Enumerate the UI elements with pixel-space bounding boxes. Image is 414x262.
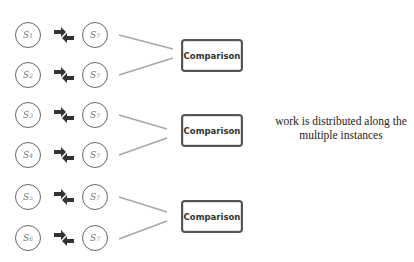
exchange-arrows-icon — [54, 189, 74, 205]
exchange-arrows-icon — [54, 67, 74, 83]
node-s7: S7 — [82, 142, 108, 168]
node-s1: S1 — [15, 22, 41, 48]
node-subscript: 5 — [29, 194, 33, 201]
connector-line — [119, 35, 173, 49]
node-s6: S6 — [15, 225, 41, 251]
comparison-box-3: Comparison — [181, 200, 243, 233]
node-s7: S7 — [82, 225, 108, 251]
comparison-box-2: Comparison — [181, 114, 243, 147]
comparison-label: Comparison — [184, 212, 241, 222]
exchange-arrows-icon — [54, 230, 74, 246]
note-line-1: work is distributed along the — [268, 114, 414, 128]
connector-line — [119, 221, 167, 239]
node-s7: S7 — [82, 184, 108, 210]
node-s5: S5 — [15, 184, 41, 210]
exchange-arrows-icon — [54, 27, 74, 43]
node-s7: S7 — [82, 102, 108, 128]
node-s4: S4 — [15, 142, 41, 168]
node-subscript: 7 — [96, 72, 100, 79]
distribution-note: work is distributed along the multiple i… — [268, 114, 414, 142]
node-subscript: 2 — [29, 72, 33, 79]
node-s3: S3 — [15, 102, 41, 128]
comparison-label: Comparison — [184, 126, 241, 136]
node-subscript: 7 — [96, 32, 100, 39]
node-subscript: 3 — [29, 112, 33, 119]
node-subscript: 7 — [96, 112, 100, 119]
exchange-arrows-icon — [54, 147, 74, 163]
node-subscript: 7 — [96, 194, 100, 201]
exchange-arrows-icon — [54, 107, 74, 123]
node-s7: S7 — [82, 62, 108, 88]
node-subscript: 4 — [29, 152, 33, 159]
node-subscript: 7 — [96, 152, 100, 159]
connector-line — [119, 197, 167, 212]
comparison-box-1: Comparison — [181, 39, 243, 72]
node-s2: S2 — [15, 62, 41, 88]
connector-line — [119, 138, 167, 155]
node-subscript: 7 — [96, 235, 100, 242]
comparison-label: Comparison — [184, 51, 241, 61]
connector-line — [119, 58, 173, 75]
node-subscript: 6 — [29, 235, 33, 242]
node-subscript: 1 — [29, 32, 33, 39]
connector-line — [119, 115, 167, 129]
node-s7: S7 — [82, 22, 108, 48]
note-line-2: multiple instances — [268, 128, 414, 142]
